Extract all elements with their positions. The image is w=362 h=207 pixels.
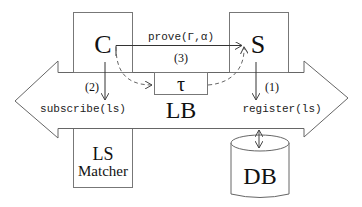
register-step: (1) bbox=[265, 80, 279, 94]
prove-edge: prove(Γ,α) (3) bbox=[116, 31, 242, 65]
server-node: S bbox=[230, 13, 289, 73]
database-node: DB bbox=[231, 130, 289, 198]
matcher-label-line2: Matcher bbox=[78, 163, 128, 179]
server-label: S bbox=[251, 30, 265, 59]
prove-label: prove(Γ,α) bbox=[148, 31, 214, 43]
database-label: DB bbox=[243, 163, 276, 189]
matcher-node: LS Matcher bbox=[74, 128, 133, 188]
prove-step: (3) bbox=[174, 51, 188, 65]
client-node: C bbox=[74, 13, 133, 73]
register-label: register(ls) bbox=[242, 103, 321, 115]
bus-label: LB bbox=[166, 97, 197, 123]
subscribe-label: subscribe(ls) bbox=[40, 103, 126, 115]
token-label: τ bbox=[177, 73, 185, 95]
lb-architecture-diagram: C S LS Matcher LB τ prove(Γ,α) (3) (2) s… bbox=[0, 0, 362, 207]
token-node: τ bbox=[155, 73, 208, 96]
matcher-label-line1: LS bbox=[92, 144, 113, 164]
subscribe-step: (2) bbox=[85, 80, 99, 94]
client-label: C bbox=[94, 30, 111, 59]
